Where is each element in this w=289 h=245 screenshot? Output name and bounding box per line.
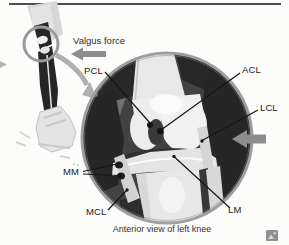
- leg-thumbnail-illustration: [16, 1, 79, 166]
- label-mcl: MCL: [86, 207, 106, 217]
- diagram-artwork: [0, 0, 289, 245]
- label-lcl: LCL: [260, 103, 278, 113]
- knee-diagram-figure: Valgus force PCL ACL LCL MM MCL LM Anter…: [0, 0, 289, 245]
- image-thumbnail-icon[interactable]: [266, 227, 278, 238]
- rotation-arrow-icon: [56, 55, 97, 99]
- valgus-force-label: Valgus force: [73, 35, 125, 46]
- label-pcl: PCL: [84, 66, 103, 76]
- valgus-force-arrow-icon: [71, 48, 106, 61]
- figure-caption: Anterior view of left knee: [75, 224, 249, 234]
- label-mm: MM: [63, 167, 79, 177]
- label-lm: LM: [228, 205, 241, 215]
- label-acl: ACL: [242, 65, 261, 75]
- left-edge-mark: [0, 61, 7, 68]
